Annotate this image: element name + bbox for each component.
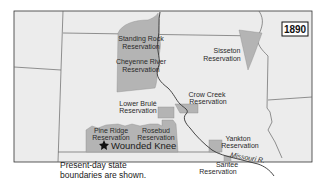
crow-creek-label-1: Crow Creek	[189, 91, 226, 98]
rosebud-label-2: Reservation	[137, 134, 174, 141]
note-line-2: boundaries are shown.	[60, 170, 146, 180]
lower-brule-area	[158, 107, 174, 118]
yankton-label-2: Reservation	[221, 142, 258, 149]
crow-creek-label-2: Reservation	[189, 98, 226, 105]
pine-ridge-label-2: Reservation	[92, 134, 129, 141]
cheyenne-river-label-2: Reservation	[122, 66, 159, 73]
lower-brule-label-1: Lower Brulé	[119, 100, 156, 107]
standing-rock-label-1: Standing Rock	[118, 35, 164, 43]
lower-brule-label-2: Reservation	[119, 107, 156, 114]
sisseton-label-1: Sisseton	[214, 47, 241, 54]
rosebud-label-1: Rosebud	[142, 127, 170, 134]
year-label: 1890	[284, 24, 307, 35]
standing-rock-label-2: Reservation	[122, 43, 159, 50]
cheyenne-river-label-1: Cheyenne River	[116, 58, 167, 66]
historical-map: Wounded Knee Standing Rock Reservation C…	[0, 0, 327, 194]
yankton-label-1: Yankton	[225, 135, 250, 142]
wounded-knee-label: Wounded Knee	[111, 140, 176, 151]
yankton-area	[209, 140, 222, 152]
note-line-1: Present-day state	[60, 160, 127, 170]
sisseton-label-2: Reservation	[203, 55, 240, 62]
santee-label-1: Santee	[216, 161, 238, 168]
santee-label-2: Reservation	[199, 168, 236, 175]
